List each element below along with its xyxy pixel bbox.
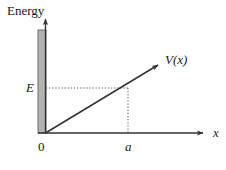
turning-point-label: a (125, 140, 132, 153)
potential-line (46, 65, 159, 133)
origin-label: 0 (38, 140, 45, 153)
y-axis-label: Energy (7, 4, 44, 17)
potential-energy-figure: Energy E V(x) 0 a x (0, 0, 226, 170)
energy-level-label: E (26, 81, 34, 94)
potential-label: V(x) (165, 53, 187, 66)
x-axis-label: x (213, 126, 219, 139)
